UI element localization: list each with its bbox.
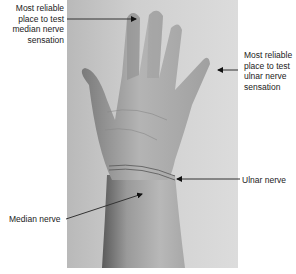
label-line: place to test [244,61,296,72]
label-median-test-location: Most reliable place to test median nerve… [0,3,64,45]
label-median-nerve: Median nerve [9,214,61,225]
label-line: Most reliable [244,50,296,61]
label-line: place to test [0,14,64,25]
label-line: sensation [244,82,296,93]
label-line: median nerve [0,24,64,35]
median-nerve-arrow [66,194,142,219]
label-ulnar-nerve: Ulnar nerve [242,175,286,186]
label-ulnar-test-location: Most reliable place to test ulnar nerve … [244,50,296,92]
label-line: ulnar nerve [244,71,296,82]
label-line: Most reliable [0,3,64,14]
label-line: sensation [0,35,64,46]
